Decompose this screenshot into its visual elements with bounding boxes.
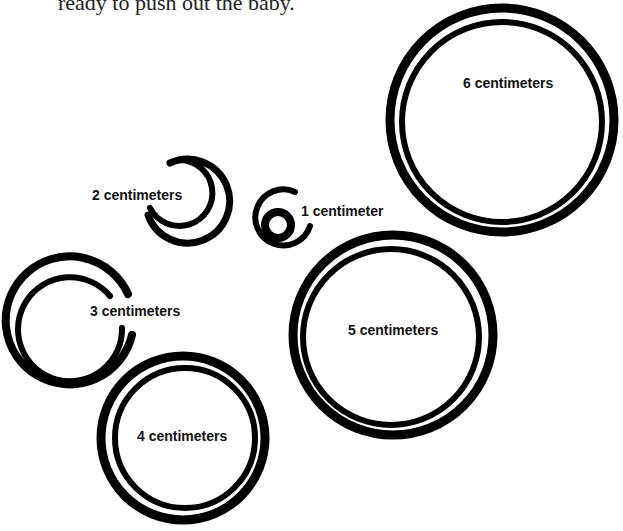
circle-3cm <box>6 256 132 384</box>
label-2cm: 2 centimeters <box>92 187 182 203</box>
label-6cm: 6 centimeters <box>463 75 553 91</box>
label-3cm: 3 centimeters <box>90 303 180 319</box>
circle-6cm <box>390 8 614 232</box>
label-1cm: 1 centimeter <box>301 203 383 219</box>
label-5cm: 5 centimeters <box>348 322 438 338</box>
label-4cm: 4 centimeters <box>137 428 227 444</box>
